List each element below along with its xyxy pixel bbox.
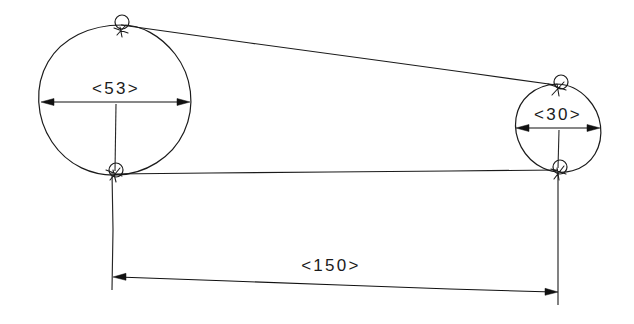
belt-drive-drawing: <53> <30> <150>: [0, 0, 634, 324]
arrow-head-right-30: [587, 125, 600, 132]
right-pulley-center-mark: [558, 130, 559, 168]
left-pulley-center-mark: [115, 104, 116, 171]
arrow-head-left-30: [516, 125, 529, 132]
arrow-head-right-53: [177, 99, 190, 106]
belt-upper-span: [121, 25, 556, 85]
arrow-head-right-150: [545, 288, 558, 295]
dimension-large-pulley-diameter: <53>: [41, 79, 190, 106]
belt-lower-span: [113, 170, 558, 174]
dim-line-150: [118, 277, 553, 292]
arrow-head-left-150: [113, 273, 126, 280]
dimension-label-53: <53>: [92, 79, 140, 98]
extension-line-left: [112, 172, 113, 290]
dimension-label-30: <30>: [534, 105, 582, 124]
dimension-small-pulley-diameter: <30>: [516, 105, 600, 132]
node-ring-icon: [115, 15, 129, 29]
node-tick-icon: [114, 25, 128, 37]
dimension-center-distance: <150>: [113, 256, 558, 295]
tangent-node-lower-left: [106, 163, 123, 182]
arrow-head-left-53: [41, 99, 54, 106]
dimension-label-150: <150>: [301, 256, 361, 275]
tangent-node-lower-right: [551, 160, 567, 180]
